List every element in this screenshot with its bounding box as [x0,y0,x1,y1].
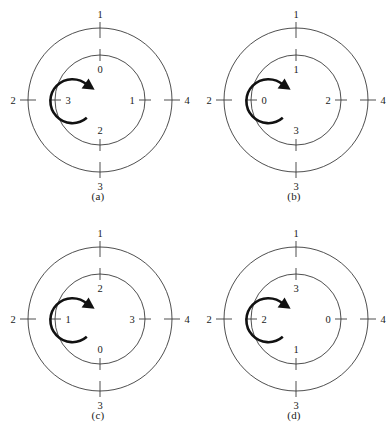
outer-label-right: 4 [184,314,190,325]
outer-label-right: 4 [380,314,386,325]
panel-b: 1 3 2 4 1 3 0 2 (b) [196,0,392,219]
rotation-arrow-icon [50,78,94,123]
outer-label-left: 2 [206,314,211,325]
inner-label-bottom: 2 [97,125,102,136]
inner-label-bottom: 3 [293,125,298,136]
outer-label-top: 1 [293,9,298,20]
panel-a-caption: (a) [0,190,196,202]
panel-d-diagram: 1 3 2 4 3 1 2 0 [196,219,392,415]
outer-label-right: 4 [184,95,190,106]
figure-root: 1 3 2 4 0 2 3 1 (a) 1 [0,0,392,438]
inner-label-bottom: 0 [97,344,102,355]
outer-label-right: 4 [380,95,386,106]
outer-label-left: 2 [10,95,15,106]
inner-label-left: 3 [65,95,70,106]
inner-label-right: 2 [325,95,330,106]
outer-label-top: 1 [97,228,102,239]
arrow-head [82,297,95,308]
inner-label-right: 1 [129,95,134,106]
panel-a: 1 3 2 4 0 2 3 1 (a) [0,0,196,219]
outer-label-top: 1 [293,228,298,239]
inner-label-top: 1 [293,64,298,75]
panel-a-diagram: 1 3 2 4 0 2 3 1 [0,0,196,196]
panel-b-caption: (b) [196,190,392,202]
arrow-head [278,297,291,308]
inner-label-left: 2 [261,314,266,325]
arrow-head [82,78,95,89]
outer-label-left: 2 [10,314,15,325]
rotation-arrow-icon [246,297,290,342]
inner-label-right: 3 [129,314,134,325]
inner-label-left: 0 [261,95,266,106]
inner-label-top: 3 [293,283,298,294]
inner-label-right: 0 [325,314,330,325]
panel-b-diagram: 1 3 2 4 1 3 0 2 [196,0,392,196]
inner-label-left: 1 [65,314,70,325]
panel-c-caption: (c) [0,409,196,421]
outer-label-left: 2 [206,95,211,106]
inner-label-top: 2 [97,283,102,294]
panel-c-diagram: 1 3 2 4 2 0 1 3 [0,219,196,415]
panel-d: 1 3 2 4 3 1 2 0 (d) [196,219,392,438]
rotation-arrow-icon [246,78,290,123]
rotation-arrow-icon [50,297,94,342]
panel-c: 1 3 2 4 2 0 1 3 (c) [0,219,196,438]
inner-label-top: 0 [97,64,102,75]
outer-label-top: 1 [97,9,102,20]
arrow-head [278,78,291,89]
inner-label-bottom: 1 [293,344,298,355]
panel-d-caption: (d) [196,409,392,421]
